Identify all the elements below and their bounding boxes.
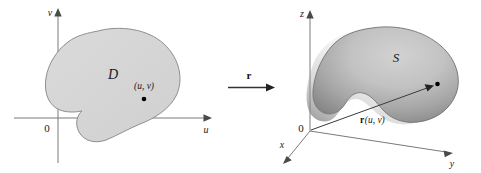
y-axis-label: y (449, 158, 455, 169)
mapping-arrow-group: r (228, 69, 275, 92)
v-axis-arrowhead (54, 8, 61, 17)
point-uv-dot (142, 97, 147, 102)
surface-s-group (307, 27, 459, 125)
u-axis-label: u (204, 124, 209, 135)
z-axis-label: z (299, 8, 304, 19)
uv-origin-label: 0 (44, 122, 50, 134)
left-panel-uv-plane: D (u, v) v u 0 (14, 7, 212, 163)
x-axis-label: x (279, 139, 285, 150)
y-axis-line (310, 131, 446, 152)
v-axis-label: v (48, 7, 53, 18)
x-axis-arrowhead (283, 156, 292, 164)
position-vector-label: r(u, v) (360, 115, 385, 126)
right-panel-xyz-space: S r(u, v) z y x 0 (279, 8, 459, 169)
y-axis-arrowhead (444, 151, 453, 158)
mapping-arrow-head (266, 84, 275, 92)
position-vector-label-arg: (u, v) (365, 115, 385, 126)
y-axis (310, 131, 453, 157)
x-axis-line (288, 131, 310, 158)
surface-point-dot (435, 82, 440, 87)
x-axis (283, 131, 310, 164)
mapping-arrow-label: r (247, 69, 252, 81)
parametric-surface-figure: D (u, v) v u 0 r (0, 0, 481, 173)
region-d-label: D (107, 67, 118, 82)
surface-s-label: S (393, 50, 400, 65)
u-axis-arrowhead (204, 114, 213, 121)
point-uv-label: (u, v) (134, 81, 154, 92)
z-axis-arrowhead (306, 10, 313, 19)
figure-canvas: D (u, v) v u 0 r (0, 0, 481, 173)
region-d-shape (45, 28, 180, 141)
xyz-origin-label: 0 (298, 122, 304, 134)
